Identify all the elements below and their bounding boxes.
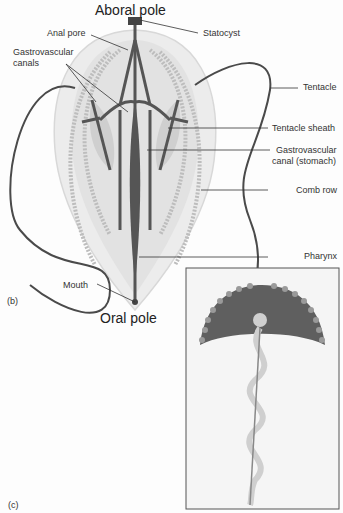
gv-canals-label-1: Gastrovascular — [13, 47, 74, 58]
statocyst-shape — [128, 17, 142, 25]
comb-row-label: Comb row — [296, 185, 337, 196]
aboral-pole-label: Aboral pole — [95, 2, 166, 18]
anal-pore-label: Anal pore — [47, 28, 86, 39]
diagram-artwork — [0, 0, 343, 513]
ctenophore-diagram: Aboral pole Anal pore Gastrovascular can… — [0, 0, 343, 513]
tentacle-sheath-label: Tentacle sheath — [272, 123, 335, 134]
oral-pole-label: Oral pole — [100, 310, 157, 326]
tentacle-label: Tentacle — [303, 82, 337, 93]
statocyst-label: Statocyst — [203, 28, 240, 39]
gv-canals-label-2: canals — [13, 58, 39, 69]
panel-b-label: (b) — [7, 296, 18, 307]
gv-stomach-label-1: Gastrovascular — [276, 145, 337, 156]
mouth-label: Mouth — [63, 280, 88, 291]
gv-stomach-label-2: canal (stomach) — [272, 156, 336, 167]
inset-statocyst — [253, 313, 267, 327]
pharynx-label: Pharynx — [304, 251, 337, 262]
panel-c-label: (c) — [8, 500, 19, 511]
